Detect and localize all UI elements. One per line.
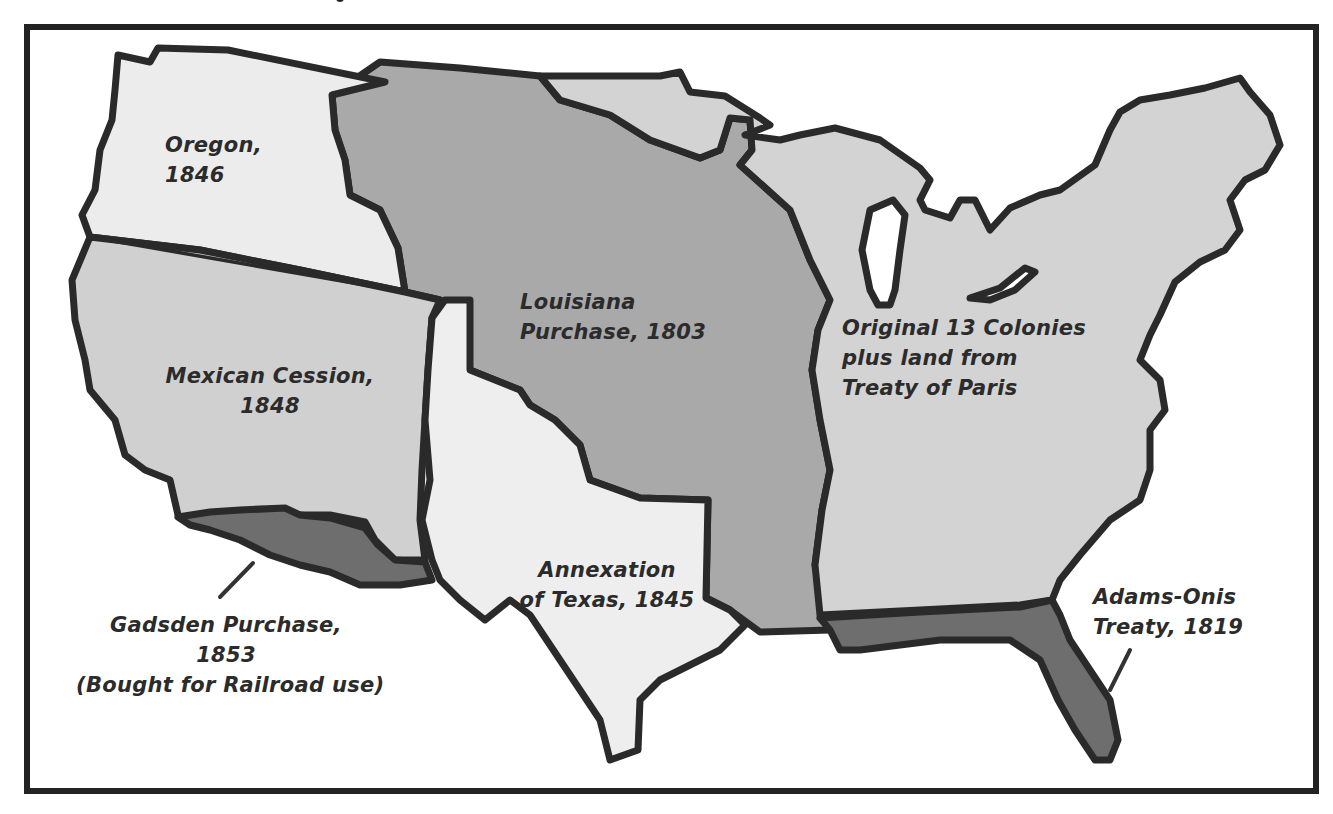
label-louisiana-purchase: Louisiana Purchase, 1803 [520, 287, 706, 347]
label-louisiana-line1: Louisiana [520, 287, 706, 317]
label-mexican-line2: 1848 [150, 391, 390, 421]
leader-line-adams-onis [1110, 650, 1130, 690]
label-adams-onis-line2: Treaty, 1819 [1093, 612, 1243, 642]
label-adams-onis-line1: Adams-Onis [1093, 582, 1243, 612]
label-original-line1: Original 13 Colonies [842, 313, 1086, 343]
label-mexican-line1: Mexican Cession, [150, 361, 390, 391]
label-adams-onis: Adams-Onis Treaty, 1819 [1093, 582, 1243, 642]
label-gadsden-line2: 1853 [76, 640, 376, 670]
label-gadsden-line1: Gadsden Purchase, [76, 610, 376, 640]
label-texas: Annexation of Texas, 1845 [497, 555, 717, 615]
label-original-line2: plus land from [842, 343, 1086, 373]
label-gadsden-purchase: Gadsden Purchase, 1853 (Bought for Railr… [76, 610, 376, 700]
label-oregon-line1: Oregon, [165, 130, 262, 160]
label-louisiana-line2: Purchase, 1803 [520, 317, 706, 347]
label-gadsden-line3: (Bought for Railroad use) [76, 670, 376, 700]
label-oregon-line2: 1846 [165, 160, 262, 190]
region-adams-onis[interactable] [820, 600, 1118, 760]
label-texas-line1: Annexation [497, 555, 717, 585]
label-original-line3: Treaty of Paris [842, 373, 1086, 403]
label-mexican-cession: Mexican Cession, 1848 [150, 361, 390, 421]
label-oregon: Oregon, 1846 [165, 130, 262, 190]
lake-michigan [862, 200, 905, 305]
label-texas-line2: of Texas, 1845 [497, 585, 717, 615]
leader-line-gadsden [220, 563, 253, 597]
label-original-colonies: Original 13 Colonies plus land from Trea… [842, 313, 1086, 403]
